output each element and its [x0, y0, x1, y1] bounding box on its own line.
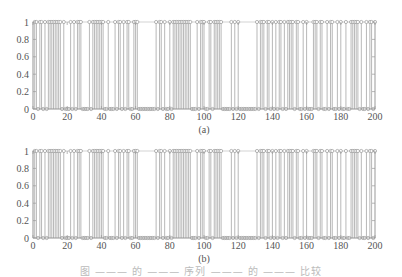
y-tick-label: 0 — [24, 104, 29, 115]
x-tick-label: 40 — [96, 111, 106, 122]
y-tick-label: 0.8 — [17, 163, 30, 174]
stem-plots: 02040608010012014016018020000.20.40.60.8… — [0, 0, 402, 277]
x-tick-label: 0 — [31, 240, 36, 251]
x-tick-label: 20 — [62, 111, 72, 122]
x-tick-label: 180 — [333, 240, 348, 251]
x-tick-label: 80 — [165, 240, 175, 251]
x-tick-label: 160 — [299, 240, 314, 251]
panel-label: (a) — [198, 124, 209, 136]
x-tick-label: 140 — [265, 240, 280, 251]
stems — [33, 20, 376, 110]
y-tick-label: 0 — [24, 233, 29, 244]
x-tick-label: 40 — [96, 240, 106, 251]
x-tick-label: 140 — [265, 111, 280, 122]
x-tick-label: 200 — [368, 111, 383, 122]
y-tick-label: 0.4 — [17, 69, 30, 80]
y-tick-label: 1 — [24, 146, 29, 157]
x-tick-label: 160 — [299, 111, 314, 122]
y-tick-label: 0.4 — [17, 198, 30, 209]
stems — [33, 149, 376, 239]
x-tick-label: 0 — [31, 111, 36, 122]
y-tick-label: 1 — [24, 17, 29, 28]
figure-caption: 图 ——— 的 ——— 序列 ——— 的 ——— 比较 — [0, 263, 402, 277]
y-tick-label: 0.2 — [17, 215, 30, 226]
y-tick-label: 0.8 — [17, 34, 30, 45]
x-tick-label: 20 — [62, 240, 72, 251]
x-tick-label: 100 — [197, 240, 212, 251]
x-tick-label: 60 — [131, 111, 141, 122]
x-tick-label: 200 — [368, 240, 383, 251]
x-tick-label: 180 — [333, 111, 348, 122]
x-tick-label: 100 — [197, 111, 212, 122]
x-tick-label: 60 — [131, 240, 141, 251]
panel-b: 02040608010012014016018020000.20.40.60.8… — [17, 146, 383, 266]
panel-a: 02040608010012014016018020000.20.40.60.8… — [17, 17, 383, 137]
y-tick-label: 0.6 — [17, 51, 30, 62]
y-tick-label: 0.2 — [17, 86, 30, 97]
y-tick-label: 0.6 — [17, 180, 30, 191]
x-tick-label: 120 — [231, 111, 246, 122]
x-tick-label: 80 — [165, 111, 175, 122]
figure: 02040608010012014016018020000.20.40.60.8… — [0, 0, 402, 277]
x-tick-label: 120 — [231, 240, 246, 251]
